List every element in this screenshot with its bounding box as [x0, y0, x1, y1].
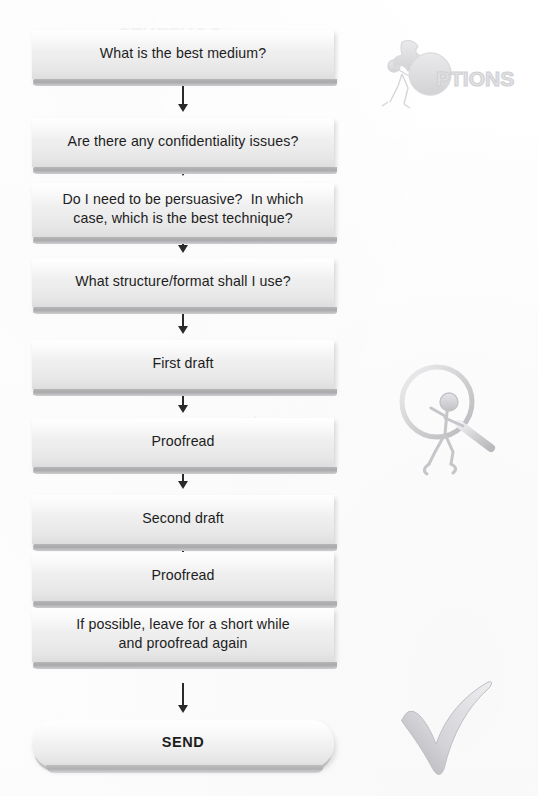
flow-node[interactable]: Proofread — [32, 552, 334, 602]
flow-node-label: If possible, leave for a short whileand … — [76, 615, 289, 651]
flow-connector-arrow — [177, 308, 189, 334]
flow-node-label: First draft — [152, 354, 213, 372]
flow-connector-arrow — [177, 683, 189, 713]
flow-node-label: Proofread — [151, 432, 214, 450]
flow-node[interactable]: Second draft — [32, 495, 334, 545]
arrow-head-icon — [178, 481, 188, 489]
svg-text:PTIONS: PTIONS — [436, 67, 514, 90]
flow-node[interactable]: Are there any confidentiality issues? — [32, 118, 334, 168]
flow-node[interactable]: Proofread — [32, 418, 334, 468]
flow-node-label: Are there any confidentiality issues? — [68, 132, 299, 150]
flowchart-page: CONTENTScommunication skillswhat you say… — [0, 0, 538, 796]
arrow-head-icon — [178, 245, 188, 253]
arrow-stem — [182, 683, 184, 705]
flow-node[interactable]: What structure/format shall I use? — [32, 258, 334, 308]
flow-connector-arrow — [177, 387, 189, 413]
arrow-head-icon — [178, 405, 188, 413]
arrow-stem — [182, 308, 184, 326]
arrow-head-icon — [178, 705, 188, 713]
arrow-head-icon — [178, 168, 188, 176]
arrow-head-icon — [178, 326, 188, 334]
flow-node-label: What structure/format shall I use? — [75, 272, 291, 290]
arrow-head-icon — [178, 104, 188, 112]
flow-node-label: SEND — [162, 733, 205, 752]
flow-node-label: Second draft — [142, 509, 224, 527]
arrow-stem — [182, 86, 184, 104]
flow-node-label: Proofread — [151, 566, 214, 584]
flow-node[interactable]: First draft — [32, 340, 334, 390]
check-mark-clipart — [400, 668, 520, 786]
flow-node[interactable]: If possible, leave for a short whileand … — [32, 608, 334, 663]
magnifying-glass-figure-clipart — [395, 360, 515, 478]
flow-node-send[interactable]: SEND — [32, 720, 334, 768]
flow-node[interactable]: What is the best medium? — [32, 30, 334, 80]
options-puzzle-figure-clipart: PTIONS — [378, 24, 528, 116]
flow-node[interactable]: Do I need to be persuasive? In whichcase… — [32, 183, 334, 238]
writing-process-flow: What is the best medium?Are there any co… — [32, 0, 334, 796]
flow-connector-arrow — [177, 86, 189, 112]
flow-node-label: What is the best medium? — [100, 44, 266, 62]
flow-node-label: Do I need to be persuasive? In whichcase… — [62, 190, 303, 226]
